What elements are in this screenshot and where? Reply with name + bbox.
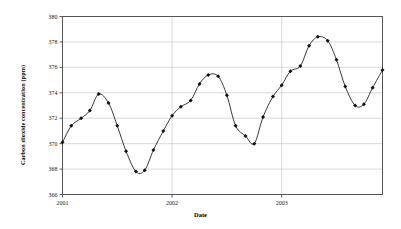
data-point-marker xyxy=(381,68,385,72)
data-series-line xyxy=(63,37,383,174)
y-axis-ticks-group: 366368370372374376378380 xyxy=(49,14,63,198)
data-point-marker xyxy=(151,148,155,152)
data-point-marker xyxy=(343,84,347,88)
y-tick-label: 374 xyxy=(49,90,58,96)
data-point-marker xyxy=(234,124,238,128)
y-tick-label: 368 xyxy=(49,166,58,172)
x-axis-ticks-group: 200120022003 xyxy=(57,195,288,206)
x-tick-label: 2001 xyxy=(57,200,69,206)
x-axis-label: Date xyxy=(0,211,401,218)
y-tick-label: 370 xyxy=(49,141,58,147)
data-point-marker xyxy=(115,124,119,128)
x-tick-label: 2002 xyxy=(166,200,178,206)
x-tick-label: 2003 xyxy=(276,200,288,206)
y-tick-label: 376 xyxy=(49,64,58,70)
y-tick-label: 378 xyxy=(49,39,58,45)
data-point-marker xyxy=(161,129,165,133)
co2-line-chart-figure: Carbon dioxide concentration (ppm) 36636… xyxy=(0,0,401,229)
data-point-marker xyxy=(225,93,229,97)
y-tick-label: 380 xyxy=(49,14,58,20)
y-tick-label: 366 xyxy=(49,192,58,198)
y-tick-label: 372 xyxy=(49,115,58,121)
data-point-marker xyxy=(124,149,128,153)
data-point-markers-group xyxy=(61,35,385,174)
plot-frame xyxy=(63,17,383,195)
gridlines-group xyxy=(63,17,383,195)
data-point-marker xyxy=(252,142,256,146)
data-point-marker xyxy=(316,35,320,39)
data-point-marker xyxy=(107,101,111,105)
data-point-marker xyxy=(334,58,338,62)
data-point-marker xyxy=(371,86,375,90)
plot-area-svg: 366368370372374376378380 200120022003 xyxy=(0,0,401,229)
data-point-marker xyxy=(206,73,210,77)
